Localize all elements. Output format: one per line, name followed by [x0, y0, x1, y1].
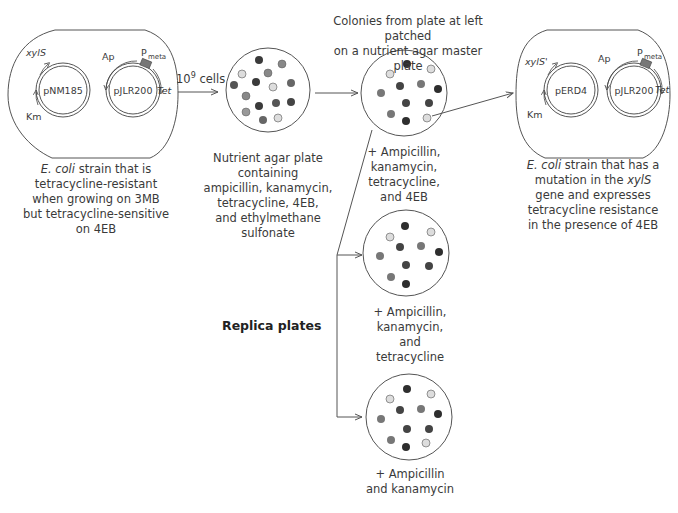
- cells-count-base: 10: [176, 72, 191, 86]
- caption-line: and: [340, 335, 480, 350]
- caption-line: on 4EB: [8, 222, 184, 237]
- caption-line: and 4EB: [354, 190, 454, 205]
- arrow-to-mutant: [432, 93, 513, 116]
- caption-line: + Ampicillin: [350, 467, 470, 482]
- heading-line: on a nutrient agar master plate: [318, 44, 498, 74]
- caption-line: + Ampicillin, kanamycin,: [340, 305, 480, 335]
- gene-label: Km: [26, 111, 41, 122]
- caption-line: and ethylmethane: [198, 211, 338, 226]
- caption-line: tetracycline,: [354, 175, 454, 190]
- gene-label: Km: [527, 109, 542, 120]
- caption-line: + Ampicillin,: [354, 145, 454, 160]
- replica-1-caption: + Ampicillin, kanamycin, and tetracyclin…: [340, 305, 480, 365]
- caption-line: strain that is: [75, 162, 151, 176]
- ems-plate-caption: Nutrient agar plate containing ampicilli…: [198, 151, 338, 241]
- caption-line: and kanamycin: [350, 482, 470, 497]
- caption-line: containing: [198, 166, 338, 181]
- plate-ems: [226, 48, 310, 132]
- caption-line: strain that has a: [561, 158, 659, 172]
- gene-name: xylS: [627, 173, 651, 187]
- caption-line: kanamycin,: [354, 160, 454, 175]
- right-cell-caption: E. coli strain that has a mutation in th…: [508, 158, 678, 233]
- caption-line: mutation in the: [535, 173, 627, 187]
- plasmid-label: pERD4: [555, 85, 587, 96]
- caption-line: but tetracycline-sensitive: [8, 207, 184, 222]
- species-name: E. coli: [527, 158, 561, 172]
- promoter-label: P: [141, 47, 147, 58]
- gene-label: Tet: [655, 84, 670, 95]
- caption-line: in the presence of 4EB: [508, 218, 678, 233]
- caption-line: tetracycline-resistant: [8, 177, 184, 192]
- cells-count-suffix: cells: [196, 72, 225, 86]
- diagram-canvas: pNM185 xylS Km pJLR200 Ap P meta Tet pER…: [0, 0, 678, 513]
- replica-plate-2: [366, 374, 452, 460]
- replica-plate-1: [363, 210, 449, 296]
- caption-line: ampicillin, kanamycin,: [198, 181, 338, 196]
- caption-line: Nutrient agar plate: [198, 151, 338, 166]
- promoter-sub: meta: [644, 53, 662, 61]
- caption-line: sulfonate: [198, 226, 338, 241]
- left-cell-caption: E. coli strain that is tetracycline-resi…: [8, 162, 184, 237]
- gene-label: xylS: [25, 47, 46, 58]
- promoter-sub: meta: [148, 53, 166, 61]
- caption-line: tetracycline, 4EB,: [198, 196, 338, 211]
- master-plate-caption: + Ampicillin, kanamycin, tetracycline, a…: [354, 145, 454, 205]
- replica-2-caption: + Ampicillin and kanamycin: [350, 467, 470, 497]
- gene-label: Ap: [598, 53, 611, 64]
- replica-plates-label: Replica plates: [222, 318, 321, 333]
- plasmid-label: pJLR200: [615, 85, 654, 96]
- caption-line: when growing on 3MB: [8, 192, 184, 207]
- caption-line: tetracycline resistance: [508, 203, 678, 218]
- plasmid-label: pJLR200: [114, 85, 153, 96]
- diagram-svg: pNM185 xylS Km pJLR200 Ap P meta Tet pER…: [0, 0, 678, 513]
- promoter-label: P: [637, 47, 643, 58]
- gene-label: xylS': [524, 56, 548, 67]
- plasmid-label: pNM185: [43, 85, 82, 96]
- heading-line: Colonies from plate at left patched: [318, 14, 498, 44]
- caption-line: tetracycline: [340, 350, 480, 365]
- species-name: E. coli: [41, 162, 75, 176]
- gene-label: Ap: [102, 51, 115, 62]
- master-plate-heading: Colonies from plate at left patched on a…: [318, 14, 498, 74]
- cells-count-label: 109 cells: [176, 68, 225, 87]
- caption-line: gene and expresses: [508, 188, 678, 203]
- gene-label: Tet: [157, 85, 172, 96]
